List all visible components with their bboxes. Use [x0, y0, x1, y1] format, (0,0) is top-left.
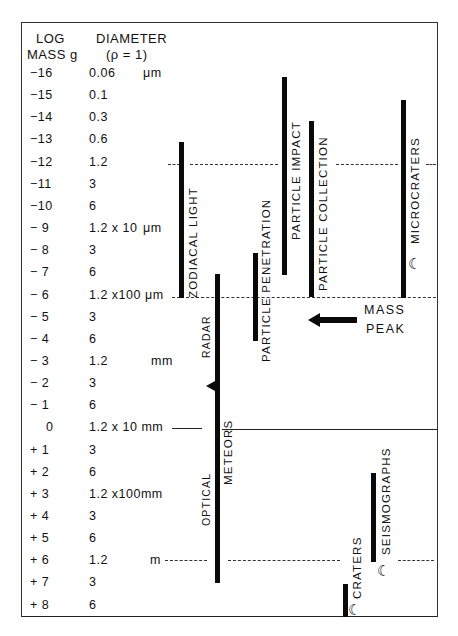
ref-line-minus12-c — [336, 164, 398, 165]
bar-particle-penetration — [253, 253, 258, 341]
diameter-header-line2: (ρ = 1) — [106, 47, 148, 62]
table-row: + 43 — [0, 509, 200, 531]
label-craters: CRATERS — [351, 537, 363, 600]
ref-line-minus6-mass-peak — [186, 297, 436, 298]
log-mass-value: −12 — [30, 155, 70, 169]
diameter-value: 1.2 x100mm — [89, 487, 163, 501]
diameter-value: 0.3 — [89, 110, 108, 124]
label-zodiacal-light: ZODIACAL LIGHT — [187, 187, 199, 298]
log-mass-value: − 5 — [30, 310, 70, 324]
unit-label: m — [150, 553, 161, 567]
unit-label: mm — [151, 354, 173, 368]
log-mass-value: − 2 — [30, 376, 70, 390]
log-mass-value: + 8 — [30, 598, 70, 612]
log-mass-value: − 3 — [30, 354, 70, 368]
bar-microcraters — [401, 100, 406, 298]
table-row: − 46 — [0, 332, 200, 354]
diameter-value: 6 — [89, 531, 96, 545]
ref-line-plus6-b — [228, 560, 340, 561]
unit-label: μm — [143, 221, 162, 235]
diameter-value: 6 — [89, 598, 96, 612]
log-mass-value: + 5 — [30, 531, 70, 545]
table-row: −121.2 — [0, 155, 200, 177]
diameter-value: 1.2 — [89, 354, 108, 368]
log-mass-value: −14 — [30, 110, 70, 124]
log-mass-value: + 3 — [30, 487, 70, 501]
label-particle-impact: PARTICLE IMPACT — [290, 121, 302, 240]
table-row: + 31.2 x100mm — [0, 487, 200, 509]
table-row: −160.06μm — [0, 66, 200, 88]
diameter-header-line1: DIAMETER — [96, 31, 167, 46]
log-mass-value: − 4 — [30, 332, 70, 346]
diameter-value: 3 — [89, 443, 96, 457]
log-mass-value: − 8 — [30, 243, 70, 257]
diameter-value: 0.6 — [89, 132, 108, 146]
diameter-value: 3 — [89, 376, 96, 390]
table-row: − 91.2 x 10μm — [0, 221, 200, 243]
diameter-value: 3 — [89, 509, 96, 523]
table-row: − 16 — [0, 398, 200, 420]
bar-meteors — [215, 274, 220, 583]
diameter-value: 6 — [89, 199, 96, 213]
ref-line-minus12-d — [426, 164, 436, 165]
bar-zodiacal-light — [179, 142, 184, 298]
log-mass-value: − 1 — [30, 398, 70, 412]
diameter-value: 1.2 x 10 mm — [89, 420, 163, 434]
label-optical: OPTICAL — [200, 473, 212, 526]
bar-particle-impact — [282, 77, 287, 275]
log-mass-value: + 6 — [30, 553, 70, 567]
diameter-value: 1.2 — [89, 155, 108, 169]
table-row: −106 — [0, 199, 200, 221]
moon-icon: ☾ — [377, 563, 390, 578]
diameter-value: 6 — [89, 332, 96, 346]
table-row: + 86 — [0, 598, 200, 620]
moon-icon: ☾ — [408, 256, 421, 271]
diameter-value: 6 — [89, 398, 96, 412]
label-meteors: METEORS — [222, 420, 234, 485]
diameter-value: 3 — [89, 575, 96, 589]
table-row: + 56 — [0, 531, 200, 553]
log-mass-value: −13 — [30, 132, 70, 146]
diameter-value: 1.2 x100 μm — [89, 288, 164, 302]
table-row: −140.3 — [0, 110, 200, 132]
log-mass-value: − 6 — [30, 288, 70, 302]
table-row: − 83 — [0, 243, 200, 265]
ref-line-zero-a — [172, 428, 202, 429]
table-row: − 76 — [0, 265, 200, 287]
diameter-value: 3 — [89, 177, 96, 191]
bar-seismographs — [371, 473, 376, 562]
log-mass-value: −16 — [30, 66, 70, 80]
mass-peak-arrow-icon — [308, 313, 320, 327]
label-radar: RADAR — [200, 315, 212, 358]
unit-label: μm — [143, 66, 162, 80]
table-row: 01.2 x 10 mm — [0, 420, 200, 442]
diameter-value: 6 — [89, 465, 96, 479]
table-row: + 61.2m — [0, 553, 200, 575]
log-mass-value: − 7 — [30, 265, 70, 279]
label-particle-penetration: PARTICLE PENETRATION — [260, 199, 272, 362]
log-mass-value: + 1 — [30, 443, 70, 457]
table-row: − 61.2 x100 μm — [0, 288, 200, 310]
ref-line-plus6-a — [165, 560, 207, 561]
mass-peak-arrow-shaft — [319, 317, 357, 323]
log-mass-value: −15 — [30, 88, 70, 102]
ref-line-zero-b — [222, 429, 438, 430]
mass-peak-label-line2: PEAK — [366, 320, 405, 339]
table-row: − 53 — [0, 310, 200, 332]
diameter-value: 6 — [89, 265, 96, 279]
log-mass-value: + 2 — [30, 465, 70, 479]
diameter-value: 3 — [89, 310, 96, 324]
bar-particle-collection — [309, 121, 314, 297]
diameter-value: 0.06 — [89, 66, 115, 80]
table-row: − 23 — [0, 376, 200, 398]
diameter-value: 1.2 x 10 — [89, 221, 137, 235]
diameter-value: 3 — [89, 243, 96, 257]
label-seismographs: SEISMOGRAPHS — [380, 447, 392, 555]
radar-optical-divider-marker — [206, 381, 215, 391]
moon-icon: ☾ — [348, 602, 361, 617]
diameter-value: 0.1 — [89, 88, 108, 102]
label-particle-collection: PARTICLE COLLECTION — [317, 136, 329, 291]
log-mass-value: −10 — [30, 199, 70, 213]
log-mass-value: + 7 — [30, 575, 70, 589]
log-mass-value: 0 — [46, 420, 86, 434]
